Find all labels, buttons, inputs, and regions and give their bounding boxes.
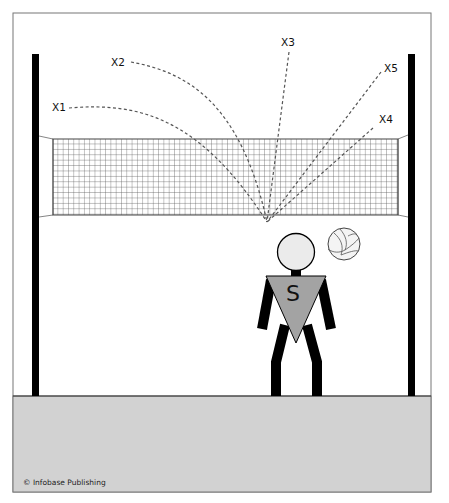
player-head xyxy=(278,234,315,271)
label-x2: X2 xyxy=(111,57,125,68)
volleyball-icon xyxy=(328,228,360,260)
right-pole xyxy=(408,54,415,396)
diagram-canvas xyxy=(0,0,449,503)
label-x1: X1 xyxy=(52,102,66,113)
left-pole xyxy=(32,54,39,396)
volleyball-net xyxy=(53,139,398,215)
label-x3: X3 xyxy=(281,37,295,48)
copyright-credit: © Infobase Publishing xyxy=(23,478,106,487)
volleyball-setter-diagram: X1 X2 X3 X5 X4 S © Infobase Publishing xyxy=(0,0,449,503)
setter-letter: S xyxy=(286,283,300,305)
label-x4: X4 xyxy=(379,114,393,125)
label-x5: X5 xyxy=(384,63,398,74)
